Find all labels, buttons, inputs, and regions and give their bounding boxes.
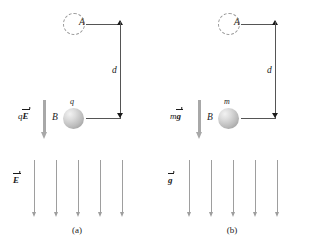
field-label-vector: g	[168, 176, 173, 185]
field-arrow	[275, 160, 280, 218]
charged-sphere	[63, 108, 84, 129]
field-arrow	[209, 160, 214, 218]
field-arrow	[76, 160, 81, 218]
distance-label-d: d	[112, 66, 117, 76]
force-label-vector: g	[177, 112, 182, 121]
field-label-E: E	[13, 176, 19, 185]
mass-sphere	[218, 108, 239, 129]
field-arrow	[253, 160, 258, 218]
distance-label-d: d	[267, 66, 272, 76]
force-label-mg: mg	[170, 112, 181, 121]
field-arrow	[231, 160, 236, 218]
panel-a-caption: (a)	[0, 226, 154, 235]
field-label-vector: E	[13, 176, 19, 185]
leader-line-top	[241, 24, 276, 25]
position-a-dashed-circle	[63, 13, 85, 35]
dimension-line-d	[120, 22, 121, 118]
dimension-line-d	[275, 22, 276, 118]
panel-a: A d q B qE E	[0, 0, 154, 246]
leader-line-top	[86, 24, 121, 25]
leader-line-bottom	[86, 118, 121, 119]
panel-b-caption: (b)	[155, 226, 309, 235]
field-arrow	[187, 160, 192, 218]
field-arrow	[120, 160, 125, 218]
position-a-dashed-circle	[218, 13, 240, 35]
panel-b: A d m B mg g	[155, 0, 309, 246]
mass-label-m: m	[224, 98, 230, 106]
field-label-g: g	[168, 176, 173, 185]
force-arrow-qE	[41, 100, 48, 139]
point-b-label: B	[207, 113, 213, 123]
field-arrow	[32, 160, 37, 218]
point-b-label: B	[52, 113, 58, 123]
force-label-qE: qE	[18, 112, 29, 121]
force-label-vector: E	[23, 112, 29, 121]
charge-label-q: q	[70, 98, 74, 106]
force-arrow-mg	[196, 100, 203, 139]
field-arrow	[98, 160, 103, 218]
physics-figure: A d q B qE E	[0, 0, 309, 246]
field-arrow	[54, 160, 59, 218]
leader-line-bottom	[241, 118, 276, 119]
